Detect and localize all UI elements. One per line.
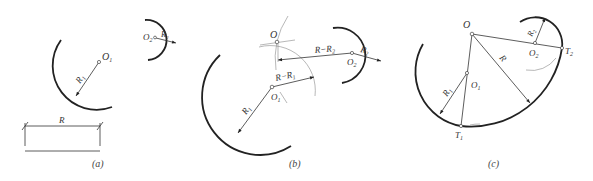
center-o-point	[275, 40, 279, 44]
tangent-point-t1	[459, 124, 462, 127]
label-o: O	[463, 19, 470, 30]
circle-o1-arc	[415, 44, 461, 126]
construction-arc	[470, 124, 480, 125]
label-o: O	[270, 29, 277, 40]
label-o1: O1	[271, 92, 281, 103]
center-o1-point	[270, 85, 274, 89]
label-o1: O1	[102, 51, 112, 63]
label-o2: O2	[347, 57, 357, 68]
center-o2-point	[350, 51, 353, 54]
construction-arc	[526, 58, 556, 71]
label-r1: R1	[73, 72, 87, 86]
label-r: R	[497, 52, 509, 64]
label-o2: O2	[529, 48, 539, 59]
label-r1: R1	[440, 86, 454, 100]
radius-r2-arrow	[535, 18, 545, 43]
label-r2: R2	[160, 30, 169, 40]
center-o2-point	[154, 36, 157, 39]
label-o1: O1	[471, 80, 481, 91]
tangent-arc-construction-diagram: O1 R1 O2 R2 R (a)	[0, 0, 593, 181]
panel-c: O O1 O2 T2 T1 R R1 R2 (c)	[415, 17, 573, 170]
panel-a: O1 R1 O2 R2 R (a)	[22, 20, 176, 170]
label-t2: T2	[565, 46, 573, 57]
label-r: R	[58, 115, 65, 125]
caption-b: (b)	[289, 158, 301, 170]
radius-r-arrow	[472, 34, 530, 103]
label-o2: O2	[143, 32, 153, 43]
label-r2: R2	[525, 27, 538, 39]
circle-o1-arc	[202, 55, 291, 155]
center-o1-point	[97, 60, 100, 63]
center-o1-point	[465, 71, 468, 74]
label-t1: T1	[455, 130, 463, 141]
construction-tick	[280, 92, 287, 103]
panel-b: O O1 O2 R1 R−R1 R−R2 R2 (b)	[202, 16, 381, 170]
caption-a: (a)	[92, 158, 104, 170]
tangent-point-t2	[560, 46, 563, 49]
label-r-minus-r2: R−R2	[313, 43, 335, 56]
center-o2-point	[533, 41, 536, 44]
center-o-point	[470, 32, 474, 36]
caption-c: (c)	[488, 158, 500, 170]
line-o-t2	[472, 34, 562, 48]
